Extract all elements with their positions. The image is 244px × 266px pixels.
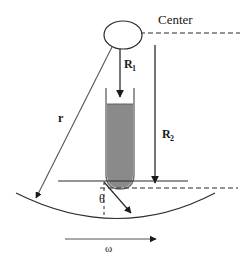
center-label: Center xyxy=(158,12,193,27)
omega-label: ω xyxy=(105,242,112,254)
R2-subscript: 2 xyxy=(170,134,174,143)
R1-subscript: 1 xyxy=(132,64,136,73)
figure-canvas: Center R 1 R 2 xyxy=(0,0,244,266)
tube-liquid-fill xyxy=(107,104,133,188)
center-reference-group: Center xyxy=(140,12,240,33)
r-arrow xyxy=(36,47,112,198)
centrifuge-diagram: Center R 1 R 2 xyxy=(0,0,244,266)
theta-label: θ xyxy=(99,192,105,206)
omega-arrow-group: ω xyxy=(65,239,156,254)
rotor-hub-ellipse xyxy=(104,21,142,49)
rotation-path-arc xyxy=(16,193,215,219)
test-tube-group xyxy=(106,88,134,189)
R2-arrow-group: R 2 xyxy=(155,45,174,183)
r-radius-group: r xyxy=(36,47,112,198)
r-label: r xyxy=(58,111,64,125)
